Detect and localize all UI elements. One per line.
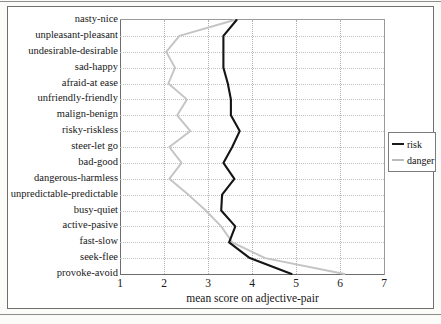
series-line-danger <box>166 20 344 274</box>
chart-legend: risk danger <box>388 132 436 172</box>
scanned-figure-page: nasty-niceunpleasant-pleasantundesirable… <box>0 0 441 324</box>
chart-series-layer <box>0 0 441 324</box>
legend-swatch-risk-icon <box>392 143 404 145</box>
legend-label-danger: danger <box>407 155 434 166</box>
legend-item-danger: danger <box>392 152 433 168</box>
legend-swatch-danger-icon <box>392 159 404 161</box>
legend-item-risk: risk <box>392 136 433 152</box>
series-line-risk <box>221 20 291 274</box>
legend-label-risk: risk <box>407 139 422 150</box>
